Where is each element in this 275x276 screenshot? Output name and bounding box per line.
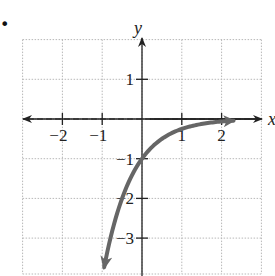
y-tick-label: −3: [116, 229, 134, 248]
y-axis-label: y: [132, 18, 142, 38]
x-tick-label: 2: [217, 126, 226, 145]
y-tick-label: −1: [116, 150, 134, 169]
graph: • −2−1121−1−2−3 x y: [0, 0, 275, 276]
x-axis-label: x: [267, 109, 275, 129]
problem-marker: •: [0, 15, 9, 34]
y-tick-label: 1: [126, 70, 135, 89]
x-tick-label: −1: [89, 126, 107, 145]
x-tick-label: −2: [49, 126, 67, 145]
